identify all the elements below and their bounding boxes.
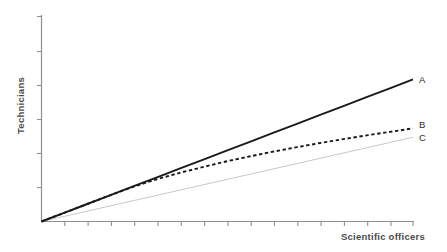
y-axis-title: Technicians (15, 66, 26, 146)
line-chart: Technicians Scientific officers A B C (0, 0, 447, 252)
series-line-a (42, 79, 414, 221)
plot-area (0, 0, 447, 252)
series-label-c: C (419, 132, 426, 143)
series-label-b: B (419, 119, 425, 130)
x-axis-title: Scientific officers (341, 231, 425, 242)
series-layer (42, 79, 414, 221)
series-line-b (42, 128, 414, 221)
y-axis-ticks (37, 17, 41, 188)
series-label-a: A (419, 74, 425, 85)
